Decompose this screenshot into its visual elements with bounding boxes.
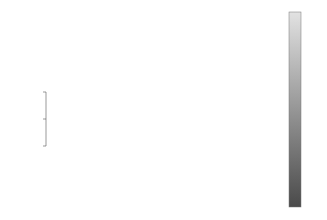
colorbar-gradient: [289, 12, 301, 207]
bar3d-chart: [0, 0, 327, 220]
colorbar: [289, 12, 301, 207]
z-axis: [43, 92, 46, 146]
